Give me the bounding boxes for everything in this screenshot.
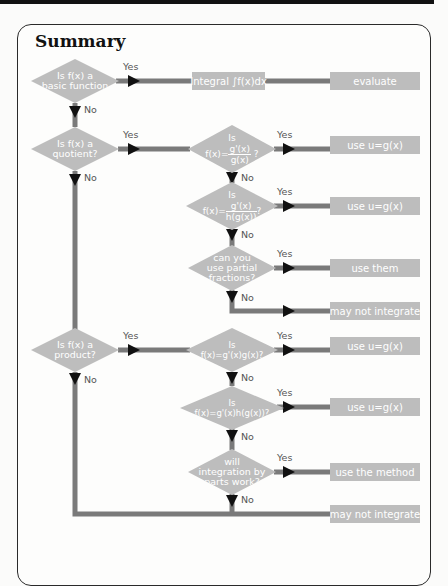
edge-label-yes: Yes	[123, 61, 138, 72]
result-use-the-method: use the method	[330, 463, 420, 481]
edge-label-no: No	[241, 229, 254, 240]
result-substitution-2: use u=g(x)	[330, 197, 420, 215]
edge-label-no: No	[241, 494, 254, 505]
result-substitution-3: use u=g(x)	[330, 337, 420, 355]
edge-label-yes: Yes	[123, 330, 138, 341]
edge-label-yes: Yes	[123, 129, 138, 140]
result-may-not-integrate-2: may not integrate	[330, 505, 420, 523]
edge-label-no: No	[241, 431, 254, 442]
edge-label-no: No	[84, 374, 97, 385]
edge-label-yes: Yes	[277, 387, 292, 398]
edge-label-no: No	[241, 292, 254, 303]
result-substitution-4: use u=g(x)	[330, 398, 420, 416]
result-may-not-integrate-1: may not integrate	[330, 302, 420, 320]
edge-label-yes: Yes	[277, 330, 292, 341]
edge-label-yes: Yes	[277, 129, 292, 140]
result-substitution-1: use u=g(x)	[330, 136, 420, 154]
result-use-partial-fractions: use them	[330, 259, 420, 277]
edge-label-yes: Yes	[277, 186, 292, 197]
result-evaluate: evaluate	[330, 72, 420, 90]
edge-label-no: No	[84, 104, 97, 115]
edge-label-yes: Yes	[277, 248, 292, 259]
result-integral: Integral ∫f(x)dx	[192, 72, 265, 90]
edge-label-no: No	[241, 372, 254, 383]
edge-label-no: No	[241, 172, 254, 183]
edge-label-yes: Yes	[277, 452, 292, 463]
edge-label-no: No	[84, 172, 97, 183]
